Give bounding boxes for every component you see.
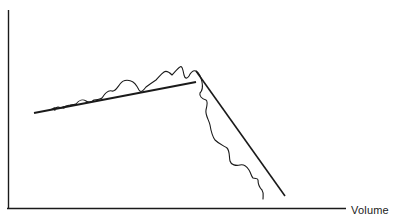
wavy-actual-curve (52, 67, 263, 199)
x-axis-label: Volume (351, 204, 389, 216)
volume-diagram (0, 0, 403, 218)
falling-trend-line (196, 71, 285, 196)
rising-trend-line (34, 82, 196, 113)
